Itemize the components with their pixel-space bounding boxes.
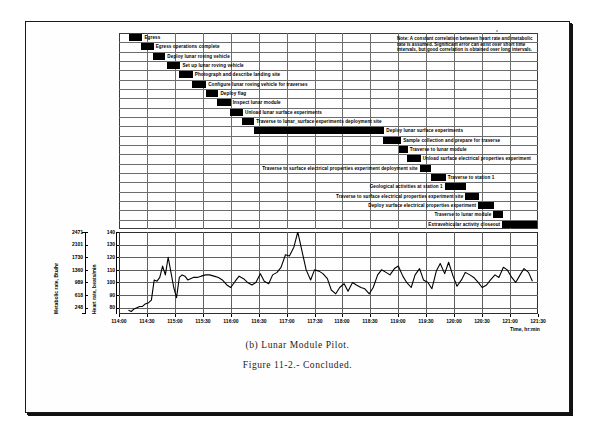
gantt-task-row: Sample collection and prepare for traver… bbox=[119, 136, 538, 145]
chart-xtick-mark bbox=[482, 314, 483, 317]
chart-heart-rate-axis-title: Heart rate, beats/min bbox=[91, 265, 97, 314]
chart-xtick-mark bbox=[426, 314, 427, 317]
gantt-task-row: Unload surface electrical properties exp… bbox=[119, 154, 538, 163]
chart-metabolic-axis-cap bbox=[82, 232, 86, 233]
chart-ytick-heart-rate: 110 bbox=[97, 267, 115, 273]
gantt-task-row: Traverse to lunar_surface experiments de… bbox=[119, 117, 538, 126]
gantt-task-bar[interactable] bbox=[502, 221, 537, 228]
gantt-task-row: Deploy lunar roving vehicle bbox=[119, 52, 538, 61]
chart-xtick-label: 117:00 bbox=[274, 318, 300, 324]
gantt-task-bar[interactable] bbox=[129, 34, 142, 41]
chart-xtick-mark bbox=[315, 314, 316, 317]
gantt-task-label: Traverse to lunar module bbox=[434, 210, 491, 219]
chart-xtick-label: 121:00 bbox=[497, 318, 523, 324]
gantt-task-bar[interactable] bbox=[407, 155, 420, 162]
chart-xtick-label: 118:30 bbox=[357, 318, 383, 324]
gantt-task-bar[interactable] bbox=[242, 118, 254, 125]
page-speck bbox=[496, 30, 498, 32]
gantt-task-bar[interactable] bbox=[141, 43, 153, 50]
caption-subfigure: (b) Lunar Module Pilot. bbox=[26, 340, 569, 350]
gantt-task-row: Deploy surface electrical properties exp… bbox=[119, 201, 538, 210]
gantt-task-bar[interactable] bbox=[478, 202, 494, 209]
gantt-task-row: Geological activities at station 1 bbox=[119, 182, 538, 191]
gantt-task-bar[interactable] bbox=[420, 165, 431, 172]
gantt-task-label: Photograph and describe landing site bbox=[195, 70, 281, 79]
gantt-task-row: Traverse to lunar module bbox=[119, 145, 538, 154]
chart-xtick-label: 119:30 bbox=[413, 318, 439, 324]
chart-ytick-metabolic-rate: 248 bbox=[57, 304, 83, 310]
chart-xtick-label: 119:00 bbox=[385, 318, 411, 324]
chart-xtick-label: 116:30 bbox=[246, 318, 272, 324]
chart-metabolic-axis-cap bbox=[82, 313, 86, 314]
gantt-task-label: Inspect lunar module bbox=[233, 98, 281, 107]
gantt-task-row: Traverse to station 1 bbox=[119, 173, 538, 182]
chart-xtick-label: 120:00 bbox=[441, 318, 467, 324]
chart-metabolic-rate-axis-title: Metabolic rate, Btu/hr bbox=[53, 263, 59, 314]
chart-metabolic-rate-axis-spine bbox=[85, 232, 86, 314]
chart-xtick-label: 117:30 bbox=[302, 318, 328, 324]
chart-xtick-label: 116:00 bbox=[218, 318, 244, 324]
gantt-task-bar[interactable] bbox=[206, 90, 219, 97]
gantt-task-label: Sample collection and prepare for traver… bbox=[403, 136, 500, 145]
chart-xtick-mark bbox=[119, 314, 120, 317]
gantt-task-label: Deploy lunar roving vehicle bbox=[167, 52, 229, 61]
gantt-task-label: Egress bbox=[144, 33, 160, 42]
chart-xtick-label: 121:30 bbox=[525, 318, 551, 324]
chart-xtick-label: 114:00 bbox=[106, 318, 132, 324]
gantt-task-bar[interactable] bbox=[445, 183, 467, 190]
chart-xtick-mark bbox=[147, 314, 148, 317]
gantt-task-bar[interactable] bbox=[254, 127, 384, 134]
gantt-task-label: Deploy flag bbox=[220, 89, 246, 98]
gantt-task-label: Configure lunar roving vehicle for trave… bbox=[208, 80, 308, 89]
chart-ytick-heart-rate: 80 bbox=[97, 304, 115, 310]
gantt-task-label: Unload surface electrical properties exp… bbox=[423, 154, 531, 163]
chart-ytick-heart-rate: 90 bbox=[97, 292, 115, 298]
gantt-task-bar[interactable] bbox=[217, 99, 230, 106]
gantt-task-row: Deploy lunar surface experiments bbox=[119, 126, 538, 135]
gantt-task-label: Traverse to surface electrical propertie… bbox=[336, 192, 463, 201]
chart-xtick-mark bbox=[398, 314, 399, 317]
chart-ytick-metabolic-rate: 1360 bbox=[57, 267, 83, 273]
gantt-task-bar[interactable] bbox=[493, 211, 503, 218]
caption-figure-number: Figure 11-2.- Concluded. bbox=[26, 360, 569, 370]
chart-ytick-heart-rate: 100 bbox=[97, 279, 115, 285]
gantt-task-bar[interactable] bbox=[431, 174, 446, 181]
gantt-task-row: Traverse to surface electrical propertie… bbox=[119, 164, 538, 173]
chart-xtick-mark bbox=[510, 314, 511, 317]
chart-xtick-mark bbox=[175, 314, 176, 317]
gantt-task-label: Deploy lunar surface experiments bbox=[386, 126, 463, 135]
chart-xtick-label: 114:30 bbox=[134, 318, 160, 324]
gantt-task-label: Traverse to station 1 bbox=[448, 173, 495, 182]
gantt-task-bar[interactable] bbox=[167, 62, 180, 69]
gantt-task-bar[interactable] bbox=[192, 81, 207, 88]
chart-xtick-label: 120:30 bbox=[469, 318, 495, 324]
gantt-task-row: Configure lunar roving vehicle for trave… bbox=[119, 80, 538, 89]
gantt-task-row: Traverse to lunar module bbox=[119, 210, 538, 219]
chart-xtick-mark bbox=[287, 314, 288, 317]
gantt-task-bar[interactable] bbox=[153, 53, 166, 60]
gantt-task-label: Extravehicular activity closeout bbox=[428, 220, 500, 229]
gantt-task-bar[interactable] bbox=[465, 193, 479, 200]
chart-xtick-mark bbox=[259, 314, 260, 317]
chart-ytick-heart-rate: 120 bbox=[97, 254, 115, 260]
chart-ytick-heart-rate: 140 bbox=[97, 229, 115, 235]
chart-heart-rate-axis-spine bbox=[116, 232, 117, 314]
gantt-task-label: Deploy surface electrical properties exp… bbox=[368, 201, 476, 210]
chart-xaxis-title: Time, hr:min bbox=[510, 326, 540, 332]
gantt-task-bar[interactable] bbox=[179, 71, 192, 78]
heart-rate-trace bbox=[119, 232, 538, 314]
eva-timeline-gantt: EgressEgress operations completeDeploy l… bbox=[119, 33, 538, 229]
chart-xtick-label: 118:00 bbox=[329, 318, 355, 324]
gantt-task-label: Traverse to lunar module bbox=[410, 145, 467, 154]
gantt-task-row: Inspect lunar module bbox=[119, 98, 538, 107]
gantt-task-label: Egress operations complete bbox=[156, 42, 220, 51]
gantt-task-bar[interactable] bbox=[399, 146, 407, 153]
gantt-task-bar[interactable] bbox=[230, 109, 243, 116]
gantt-task-row: Photograph and describe landing site bbox=[119, 70, 538, 79]
gantt-task-bar[interactable] bbox=[383, 137, 401, 144]
chart-xtick-label: 115:30 bbox=[190, 318, 216, 324]
gantt-task-label: Unload lunar surface experiments bbox=[245, 108, 322, 117]
chart-ytick-metabolic-rate: 618 bbox=[57, 292, 83, 298]
chart-xtick-mark bbox=[454, 314, 455, 317]
gantt-task-row: Extravehicular activity closeout bbox=[119, 220, 538, 229]
